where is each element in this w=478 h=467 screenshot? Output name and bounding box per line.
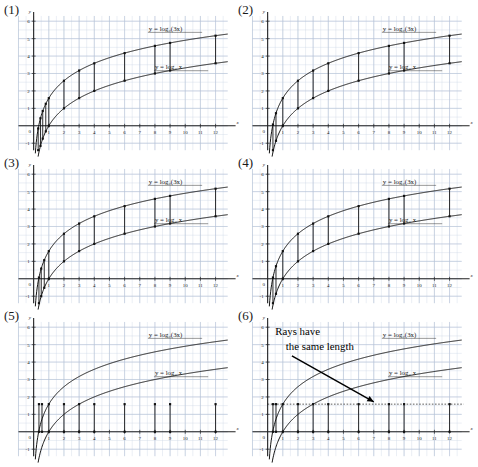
panel-5: (5)xy1234567891011120-1123456y = log₂(3x… bbox=[0, 306, 234, 459]
svg-text:9: 9 bbox=[169, 130, 172, 135]
ray-endpoint-marker bbox=[169, 431, 171, 433]
svg-text:3: 3 bbox=[27, 224, 30, 229]
svg-text:11: 11 bbox=[432, 130, 437, 135]
upper-curve-label-text: y = log₂(3x) bbox=[149, 178, 182, 186]
ray-endpoint-marker bbox=[124, 403, 126, 405]
ray-endpoint-marker bbox=[448, 431, 450, 433]
svg-text:6: 6 bbox=[27, 172, 30, 177]
svg-text:2: 2 bbox=[27, 242, 30, 247]
svg-text:1: 1 bbox=[48, 436, 51, 441]
ray-endpoint-marker bbox=[327, 431, 329, 433]
ray-endpoint-marker bbox=[327, 403, 329, 405]
tick-labels: 1234567891011120-1123456 bbox=[26, 325, 219, 452]
panel-3: (3)xy1234567891011120-1123456y = log₂(3x… bbox=[0, 153, 234, 306]
upper-curve-label-text: y = log₂(3x) bbox=[383, 331, 416, 339]
svg-text:7: 7 bbox=[373, 130, 376, 135]
x-axis-label: x bbox=[470, 120, 474, 125]
upper-curve-label-text: y = log₂(3x) bbox=[383, 25, 416, 33]
svg-text:2: 2 bbox=[261, 395, 264, 400]
ray-endpoint-marker bbox=[275, 431, 277, 433]
svg-text:3: 3 bbox=[78, 283, 81, 288]
svg-text:3: 3 bbox=[78, 130, 81, 135]
y-axis-label: y bbox=[28, 315, 32, 320]
svg-text:10: 10 bbox=[417, 130, 422, 135]
svg-text:10: 10 bbox=[417, 436, 422, 441]
lower-curve-label-text: y = log₂ x bbox=[389, 369, 417, 376]
ray-endpoint-marker bbox=[93, 431, 95, 433]
y-axis-label: y bbox=[262, 162, 266, 167]
lower-curve-label: y = log₂ x bbox=[388, 216, 442, 224]
svg-text:2: 2 bbox=[297, 130, 300, 135]
svg-text:10: 10 bbox=[183, 130, 188, 135]
annotation-group: Rays havethe same length bbox=[275, 325, 374, 402]
svg-text:11: 11 bbox=[198, 436, 203, 441]
svg-text:11: 11 bbox=[432, 436, 437, 441]
axes bbox=[18, 165, 235, 303]
ray-endpoint-marker bbox=[41, 403, 43, 405]
upper-curve-label: y = log₂(3x) bbox=[148, 331, 202, 339]
svg-text:2: 2 bbox=[27, 89, 30, 94]
y-axis-label: y bbox=[262, 315, 266, 320]
svg-text:5: 5 bbox=[342, 436, 345, 441]
svg-text:6: 6 bbox=[261, 325, 264, 330]
svg-text:7: 7 bbox=[139, 436, 142, 441]
ray-endpoint-marker bbox=[154, 431, 156, 433]
svg-text:5: 5 bbox=[342, 283, 345, 288]
lower-curve-label: y = log₂ x bbox=[154, 216, 208, 224]
svg-text:6: 6 bbox=[27, 325, 30, 330]
svg-text:1: 1 bbox=[27, 259, 30, 264]
y-axis-label: y bbox=[28, 9, 32, 14]
svg-text:3: 3 bbox=[261, 224, 264, 229]
annotation-line-1: Rays have bbox=[275, 325, 320, 337]
svg-text:11: 11 bbox=[432, 283, 437, 288]
upper-curve-label-text: y = log₂(3x) bbox=[149, 25, 182, 33]
ray-endpoint-marker bbox=[358, 431, 360, 433]
svg-text:3: 3 bbox=[78, 436, 81, 441]
upper-curve-label: y = log₂(3x) bbox=[382, 331, 436, 339]
svg-text:1: 1 bbox=[282, 283, 285, 288]
ray-endpoint-marker bbox=[214, 403, 216, 405]
ray-endpoint-marker bbox=[388, 431, 390, 433]
axes bbox=[252, 165, 469, 303]
svg-text:9: 9 bbox=[169, 436, 172, 441]
plot-area: xy1234567891011120-1123456y = log₂(3x)y … bbox=[250, 14, 462, 150]
ray-endpoint-marker bbox=[38, 403, 40, 405]
svg-text:1: 1 bbox=[27, 106, 30, 111]
plot-area: xy1234567891011120-1123456y = log₂(3x)y … bbox=[250, 167, 462, 303]
svg-text:10: 10 bbox=[183, 283, 188, 288]
svg-text:4: 4 bbox=[261, 54, 264, 59]
svg-text:6: 6 bbox=[261, 19, 264, 24]
ray-endpoint-marker bbox=[275, 403, 277, 405]
svg-text:5: 5 bbox=[261, 37, 264, 42]
svg-text:0: 0 bbox=[28, 282, 31, 287]
svg-text:3: 3 bbox=[27, 71, 30, 76]
ray-endpoint-marker bbox=[358, 403, 360, 405]
ray-endpoint-marker bbox=[63, 403, 65, 405]
tick-labels: 1234567891011120-1123456 bbox=[26, 19, 219, 146]
svg-text:5: 5 bbox=[27, 190, 30, 195]
svg-text:-1: -1 bbox=[26, 447, 31, 452]
lower-curve-label: y = log₂ x bbox=[388, 63, 442, 71]
x-axis-label: x bbox=[470, 273, 474, 278]
svg-text:3: 3 bbox=[261, 377, 264, 382]
lower-curve bbox=[38, 215, 228, 310]
svg-text:8: 8 bbox=[388, 283, 391, 288]
svg-text:11: 11 bbox=[198, 283, 203, 288]
svg-text:7: 7 bbox=[373, 283, 376, 288]
svg-text:2: 2 bbox=[261, 89, 264, 94]
plot-area: xy1234567891011120-1123456y = log₂(3x)y … bbox=[16, 320, 228, 456]
svg-text:0: 0 bbox=[262, 435, 265, 440]
svg-text:6: 6 bbox=[123, 436, 126, 441]
svg-text:6: 6 bbox=[123, 130, 126, 135]
tick-labels: 1234567891011120-1123456 bbox=[260, 172, 453, 299]
svg-text:6: 6 bbox=[357, 283, 360, 288]
svg-text:12: 12 bbox=[447, 130, 452, 135]
svg-text:11: 11 bbox=[198, 130, 203, 135]
lower-curve bbox=[272, 215, 462, 310]
svg-text:6: 6 bbox=[261, 172, 264, 177]
svg-text:4: 4 bbox=[261, 207, 264, 212]
svg-text:-1: -1 bbox=[260, 447, 265, 452]
svg-text:1: 1 bbox=[27, 412, 30, 417]
svg-text:-1: -1 bbox=[26, 141, 31, 146]
